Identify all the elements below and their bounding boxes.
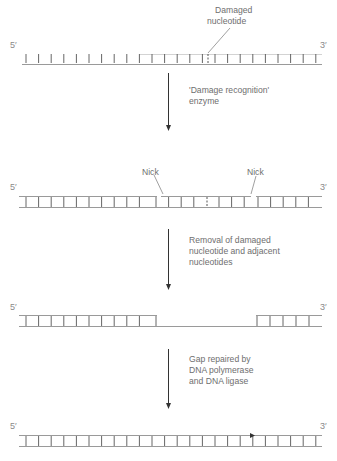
step3-label-line2: DNA polymerase xyxy=(189,365,253,376)
dna-strand-nicked xyxy=(19,175,322,208)
step3-label-line1: Gap repaired by xyxy=(189,354,251,365)
dna-repair-diagram xyxy=(0,0,337,461)
five-prime-label: 5′ xyxy=(10,40,17,50)
dna-strand-damaged xyxy=(22,28,322,65)
dna-strand-gapped xyxy=(19,316,322,327)
three-prime-label: 3′ xyxy=(320,302,327,312)
arrow-down-icon xyxy=(166,73,171,131)
step2-label-line2: nucleotide and adjacent xyxy=(189,246,280,257)
damaged-leader-line xyxy=(208,28,230,53)
arrow-down-icon xyxy=(166,229,171,290)
nick-right-label: Nick xyxy=(247,167,264,178)
step1-label-line1: 'Damage recognition' xyxy=(189,85,269,96)
nick-left-label: Nick xyxy=(142,167,159,178)
dna-strand-repaired xyxy=(19,433,322,447)
damaged-nucleotide-label-line2: nucleotide xyxy=(207,16,246,27)
step3-label-line3: and DNA ligase xyxy=(189,376,248,387)
step2-label-line1: Removal of damaged xyxy=(189,235,271,246)
damaged-nucleotide-label-line1: Damaged xyxy=(215,5,252,16)
five-prime-label: 5′ xyxy=(10,302,17,312)
five-prime-label: 5′ xyxy=(10,421,17,431)
step2-label-line3: nucleotides xyxy=(189,257,232,268)
three-prime-label: 3′ xyxy=(320,40,327,50)
five-prime-label: 5′ xyxy=(10,182,17,192)
three-prime-label: 3′ xyxy=(320,421,327,431)
arrow-down-icon xyxy=(166,349,171,409)
step1-label-line2: enzyme xyxy=(189,96,219,107)
three-prime-label: 3′ xyxy=(320,182,327,192)
nick-right-leader xyxy=(251,176,256,194)
